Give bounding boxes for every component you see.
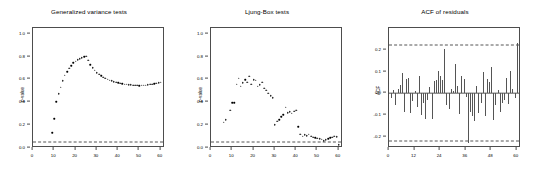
- data-point: [240, 86, 242, 88]
- y-tick-mark: [27, 124, 30, 125]
- x-tick-label: 12: [411, 153, 416, 158]
- data-point: [238, 77, 240, 79]
- data-point: [64, 75, 66, 77]
- acf-spike: [398, 89, 399, 93]
- diagnostics-figure: Generalized variance tests p-value 0.00.…: [0, 0, 534, 187]
- x-tick-label: 0: [387, 153, 389, 158]
- y-tick-mark: [27, 101, 30, 102]
- acf-spike: [425, 93, 426, 118]
- x-tick-mark: [413, 147, 414, 150]
- acf-spike: [506, 78, 507, 94]
- data-point: [85, 55, 87, 57]
- data-point: [234, 102, 236, 104]
- acf-spike: [464, 79, 465, 93]
- x-tick-mark: [210, 147, 211, 150]
- data-point: [92, 67, 94, 69]
- data-point: [300, 133, 302, 135]
- acf-spike: [393, 90, 394, 93]
- acf-spike: [449, 93, 450, 108]
- x-tick-label: 60: [157, 153, 162, 158]
- acf-spike: [510, 71, 511, 94]
- x-tick-mark: [252, 147, 253, 150]
- acf-spike: [515, 93, 516, 97]
- y-tick-mark: [205, 32, 208, 33]
- acf-spike: [459, 93, 460, 114]
- x-tick-mark: [337, 147, 338, 150]
- data-point: [266, 89, 268, 91]
- data-point: [54, 118, 56, 120]
- data-point: [223, 122, 225, 124]
- data-point: [244, 79, 246, 81]
- acf-spike: [436, 80, 437, 93]
- data-point: [229, 109, 231, 111]
- y-tick-label: 0.6: [197, 76, 203, 81]
- acf-spike: [517, 43, 518, 93]
- acf-spike: [466, 93, 467, 97]
- acf-spike: [419, 76, 420, 93]
- data-point: [73, 62, 75, 64]
- y-tick-label: -0.2: [373, 134, 381, 139]
- data-point: [278, 119, 280, 121]
- acf-spike: [444, 49, 445, 94]
- acf-spike: [395, 93, 396, 105]
- acf-spike: [472, 93, 473, 116]
- y-tick-mark: [205, 147, 208, 148]
- acf-spike: [408, 78, 409, 94]
- plot-area: [32, 27, 164, 147]
- data-point: [236, 83, 238, 85]
- y-tick-label: 0.8: [19, 53, 25, 58]
- data-point: [295, 110, 297, 112]
- acf-spike: [412, 93, 413, 101]
- data-point: [268, 93, 270, 95]
- data-point: [60, 86, 62, 88]
- x-tick-mark: [388, 147, 389, 150]
- panel-title: Generalized variance tests: [0, 8, 178, 15]
- acf-spike: [481, 93, 482, 103]
- acf-spike: [434, 81, 435, 93]
- x-tick-label: 30: [271, 153, 276, 158]
- acf-spike: [512, 89, 513, 94]
- x-tick-label: 10: [51, 153, 56, 158]
- y-tick-mark: [383, 70, 386, 71]
- x-tick-label: 10: [229, 153, 234, 158]
- acf-spike: [446, 93, 447, 105]
- data-point: [88, 60, 90, 62]
- acf-spike: [423, 93, 424, 103]
- x-tick-mark: [117, 147, 118, 150]
- acf-spike: [421, 93, 422, 115]
- acf-spike: [489, 82, 490, 93]
- acf-spike: [498, 90, 499, 94]
- data-point: [251, 83, 253, 85]
- x-tick-label: 40: [293, 153, 298, 158]
- data-point: [281, 116, 283, 118]
- acf-spike: [415, 91, 416, 94]
- data-point: [338, 144, 340, 146]
- data-point: [249, 75, 251, 77]
- y-tick-mark: [383, 92, 386, 93]
- x-tick-label: 40: [115, 153, 120, 158]
- y-tick-mark: [205, 55, 208, 56]
- acf-spike: [478, 93, 479, 112]
- data-point: [58, 93, 60, 95]
- acf-spike: [400, 85, 401, 94]
- data-point: [62, 80, 64, 82]
- x-tick-label: 60: [335, 153, 340, 158]
- acf-spike: [438, 71, 439, 94]
- x-axis-ticks: 0102030405060: [210, 147, 342, 167]
- y-tick-label: 0.0: [197, 145, 203, 150]
- acf-spike: [500, 93, 501, 112]
- y-tick-mark: [383, 48, 386, 49]
- y-tick-label: 1.0: [197, 30, 203, 35]
- y-tick-label: 1.0: [19, 30, 25, 35]
- y-tick-mark: [383, 136, 386, 137]
- y-axis-ticks: 0.00.20.40.60.81.0: [178, 27, 208, 147]
- data-point: [272, 97, 274, 99]
- acf-spike: [455, 64, 456, 93]
- data-point: [255, 80, 257, 82]
- acf-spike: [483, 72, 484, 94]
- x-tick-label: 24: [437, 153, 442, 158]
- x-axis-ticks: 01224364860: [388, 147, 520, 167]
- y-tick-label: 0.2: [19, 122, 25, 127]
- data-point: [246, 82, 248, 84]
- acf-spike: [453, 91, 454, 94]
